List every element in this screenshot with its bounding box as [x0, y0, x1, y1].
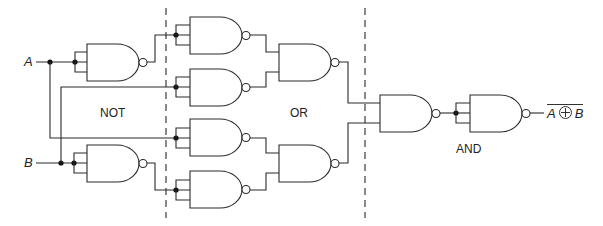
- section-label-and: AND: [456, 142, 481, 156]
- nand-gate-1: [190, 17, 250, 54]
- wire-or2-and: [339, 123, 380, 163]
- nand-gate-4: [190, 171, 250, 208]
- section-label-not: NOT: [100, 106, 125, 120]
- or-gate-top: [279, 44, 339, 81]
- output-label-b: B: [575, 106, 584, 121]
- output-label: AB: [547, 104, 583, 121]
- wire-n1-or1: [250, 35, 279, 52]
- wire-n3-or2: [250, 138, 279, 153]
- output-label-a: A: [547, 106, 556, 121]
- nand-gate-3: [190, 119, 250, 156]
- section-label-or: OR: [290, 106, 308, 120]
- xor-operator-icon: [559, 106, 572, 119]
- and-inverter-gate: [470, 95, 530, 132]
- nand-gate-2: [190, 69, 250, 106]
- not-a-output-wire: [147, 35, 190, 62]
- wire-n4-or2: [250, 173, 279, 190]
- input-label-a: A: [24, 54, 33, 69]
- input-label-b: B: [24, 155, 33, 170]
- not-gate-b: [87, 145, 147, 182]
- not-gate-a: [87, 44, 147, 81]
- wire-n2-or1: [250, 72, 279, 87]
- wire-or1-and: [339, 62, 380, 103]
- and-nand-gate: [380, 95, 440, 132]
- or-gate-bottom: [279, 145, 339, 182]
- or-input-junctions: [173, 25, 190, 200]
- not-b-output-wire: [147, 163, 190, 190]
